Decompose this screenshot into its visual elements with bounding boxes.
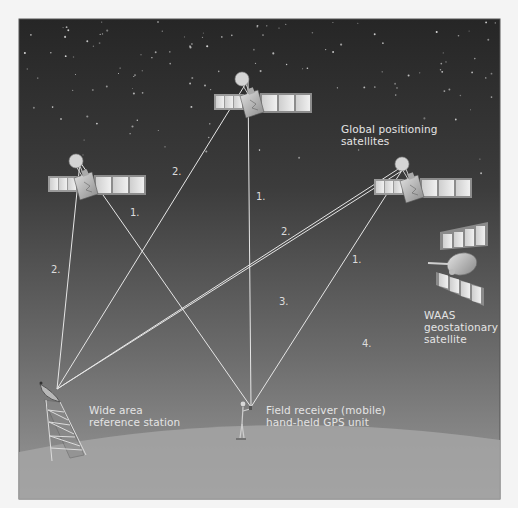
step-number-right-sat-to-station: 2.: [281, 226, 291, 237]
step-number-right-sat-to-receiver: 1.: [352, 254, 362, 265]
step-number-top-sat-to-station: 2.: [172, 166, 182, 177]
step-number-waas-to-receiver: 4.: [362, 338, 372, 349]
step-number-station-to-waas: 3.: [279, 296, 289, 307]
field-receiver-label: Field receiver (mobile) hand-held GPS un…: [266, 404, 386, 428]
reference-station-label: Wide area reference station: [89, 404, 180, 428]
diagram-canvas: [0, 0, 518, 508]
gps-satellites-label: Global positioning satellites: [341, 123, 437, 147]
step-number-top-sat-to-receiver: 1.: [256, 191, 266, 202]
step-number-left-sat-to-station: 2.: [51, 264, 61, 275]
step-number-left-sat-to-receiver: 1.: [130, 207, 140, 218]
waas-satellite-label: WAAS geostationary satellite: [424, 309, 498, 345]
gps-waas-diagram: 1.1.1.2.2.2.3.4. Global positioning sate…: [0, 0, 518, 508]
